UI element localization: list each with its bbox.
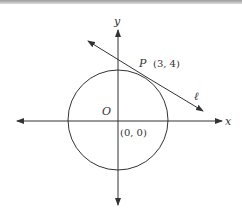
origin-coords: (0, 0): [120, 127, 147, 138]
point-coords: (3, 4): [153, 58, 180, 69]
y-axis-label: y: [113, 15, 121, 28]
point-label: P: [138, 57, 147, 70]
origin-label: O: [102, 105, 111, 118]
x-axis-label: x: [225, 115, 232, 128]
diagram-canvas: y x P (3, 4) ℓ O (0, 0): [0, 0, 242, 215]
line-label: ℓ: [194, 90, 199, 103]
